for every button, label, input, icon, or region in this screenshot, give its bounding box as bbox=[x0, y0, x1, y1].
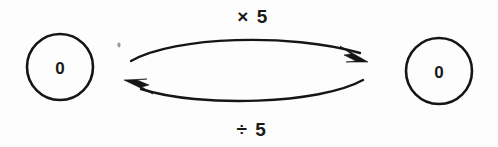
reverse-arrow[interactable] bbox=[124, 79, 363, 101]
forward-arrow-curve bbox=[131, 40, 360, 61]
reverse-edge-label: ÷ 5 bbox=[237, 119, 268, 140]
left-node-label: 0 bbox=[55, 59, 64, 78]
right-node-label: 0 bbox=[434, 63, 443, 82]
diagram-svg: 0 0 × 5 ÷ 5 bbox=[0, 0, 498, 147]
diagram-canvas: 0 0 × 5 ÷ 5 bbox=[0, 0, 498, 147]
forward-edge-label: × 5 bbox=[237, 6, 268, 27]
reverse-arrow-curve bbox=[141, 80, 363, 101]
reverse-arrow-head bbox=[124, 79, 153, 94]
node-right[interactable]: 0 bbox=[406, 38, 472, 104]
scan-speck-artifact bbox=[117, 43, 120, 48]
node-left[interactable]: 0 bbox=[27, 34, 93, 100]
forward-arrow[interactable] bbox=[131, 40, 368, 62]
forward-arrow-head bbox=[340, 46, 368, 62]
